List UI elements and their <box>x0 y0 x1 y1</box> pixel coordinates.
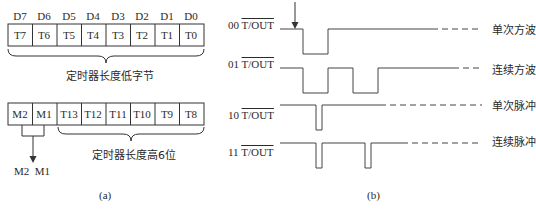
signal-label-11: 11 T/OUT <box>228 146 274 158</box>
low-byte-brace <box>8 49 204 63</box>
waveform-11 <box>280 143 402 168</box>
panel-b-caption: (b) <box>367 189 380 201</box>
register-cell: M2 <box>8 108 32 120</box>
bit-label: D2 <box>130 10 154 22</box>
register-cell: T12 <box>81 108 105 120</box>
bit-label: D7 <box>8 10 32 22</box>
signal-label-00: 00 T/OUT <box>228 19 274 31</box>
signal-name: T/OUT <box>242 109 274 121</box>
register-cell: T10 <box>130 108 154 120</box>
bit-label: D6 <box>32 10 56 22</box>
waveform-label-single-square: 单次方波 <box>492 21 536 37</box>
register-cell: M1 <box>32 108 56 120</box>
panel-a-caption: (a) <box>99 189 111 201</box>
waveform-00 <box>280 29 432 54</box>
signal-label-10: 10 T/OUT <box>228 109 274 121</box>
register-cell: T11 <box>106 108 130 120</box>
register-cell: T1 <box>155 29 179 41</box>
bit-label: D3 <box>106 10 130 22</box>
high-byte-brace-label: 定时器长度高6位 <box>92 146 176 162</box>
register-cell: T5 <box>57 29 81 41</box>
signal-name: T/OUT <box>242 19 274 31</box>
mode-code: 00 <box>228 19 239 31</box>
bit-label: D1 <box>155 10 179 22</box>
signal-name: T/OUT <box>241 146 273 158</box>
register-cell: T7 <box>8 29 32 41</box>
waveform-label-continuous-pulse: 连续脉冲 <box>492 133 536 149</box>
bit-label: D4 <box>81 10 105 22</box>
mode-bits-bracket <box>22 125 44 136</box>
mode-bits-label: M2 M1 <box>14 165 50 177</box>
mode-arrow-head <box>30 156 37 163</box>
register-cell: T4 <box>81 29 105 41</box>
bit-label: D5 <box>57 10 81 22</box>
register-cell: T0 <box>179 29 203 41</box>
waveform-label-continuous-square: 连续方波 <box>492 61 536 77</box>
waveform-10 <box>280 105 380 130</box>
mode-code: 11 <box>228 146 239 158</box>
register-cell: T2 <box>130 29 154 41</box>
register-cell: T9 <box>155 108 179 120</box>
signal-name: T/OUT <box>242 58 274 70</box>
register-cell: T6 <box>32 29 56 41</box>
low-byte-brace-label: 定时器长度低字节 <box>66 67 154 83</box>
waveform-label-single-pulse: 单次脉冲 <box>492 97 536 113</box>
register-cell: T8 <box>179 108 203 120</box>
register-cell: T13 <box>57 108 81 120</box>
waveform-01 <box>280 68 453 93</box>
trigger-arrow-icon <box>292 22 299 29</box>
register-cell: T3 <box>106 29 130 41</box>
signal-label-01: 01 T/OUT <box>228 58 274 70</box>
mode-code: 10 <box>228 109 239 121</box>
high-byte-brace <box>58 127 204 141</box>
mode-code: 01 <box>228 58 239 70</box>
bit-label: D0 <box>179 10 203 22</box>
